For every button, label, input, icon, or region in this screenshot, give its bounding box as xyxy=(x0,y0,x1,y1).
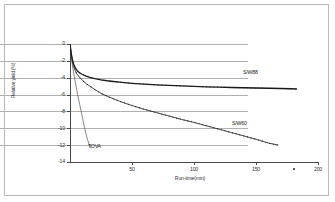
y-tick-label--14: -14 xyxy=(43,159,65,164)
x-tick-label-150: 150 xyxy=(244,167,268,172)
x-tick-label-100: 100 xyxy=(182,167,206,172)
y-tick-label--6: -6 xyxy=(43,92,65,97)
series-label-tova: TOVA xyxy=(88,144,101,149)
series-label-sw88: S/W88 xyxy=(243,70,258,75)
x-tickmark xyxy=(318,162,319,165)
y-tick-label-0: 0 xyxy=(43,41,65,46)
series-curves xyxy=(70,44,318,162)
y-tick-label--2: -2 xyxy=(43,58,65,63)
y-tick-label--10: -10 xyxy=(43,126,65,131)
y-tickmark xyxy=(67,162,70,163)
x-axis-title: Run-time(min) xyxy=(130,176,250,181)
legend-marker-dot xyxy=(293,168,295,170)
y-tick-label--8: -8 xyxy=(43,109,65,114)
y-tick-label--4: -4 xyxy=(43,75,65,80)
chart-screenshot: 0 -2 -4 -6 -8 -10 -12 -14 50 100 150 200… xyxy=(0,0,335,202)
x-tick-label-50: 50 xyxy=(120,167,144,172)
x-tickmark xyxy=(256,162,257,165)
x-tickmark xyxy=(132,162,133,165)
y-axis-title: Relative yield (%) xyxy=(11,46,16,116)
curve-sw88 xyxy=(70,44,297,89)
series-label-sw60: S/W60 xyxy=(232,121,247,126)
chart-figure: 0 -2 -4 -6 -8 -10 -12 -14 50 100 150 200… xyxy=(0,0,335,202)
curve-tova xyxy=(70,44,91,148)
curve-sw60 xyxy=(70,44,278,145)
markers-sw88 xyxy=(72,59,296,89)
x-tickmark xyxy=(194,162,195,165)
x-tick-label-200: 200 xyxy=(306,167,330,172)
y-tick-label--12: -12 xyxy=(43,143,65,148)
plot-area xyxy=(70,44,318,162)
